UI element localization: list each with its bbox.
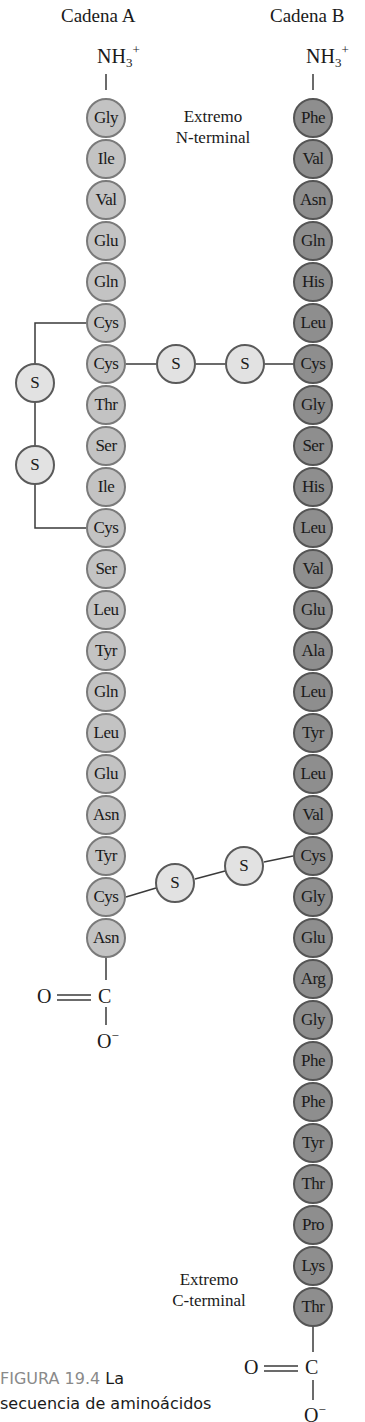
residue-b3: Asn xyxy=(293,180,333,220)
residue-b16: Tyr xyxy=(293,713,333,753)
oxygen-text: O xyxy=(97,1030,111,1052)
residue-a21: Asn xyxy=(86,918,126,958)
residue-a5: Gln xyxy=(86,262,126,302)
residue-b23: Gly xyxy=(293,1000,333,1040)
chain-a-title: Cadena A xyxy=(61,5,135,27)
residue-a18: Asn xyxy=(86,795,126,835)
residue-a15: Gln xyxy=(86,672,126,712)
residue-b21: Glu xyxy=(293,918,333,958)
subscript: 3 xyxy=(126,55,133,70)
residue-b11: Leu xyxy=(293,508,333,548)
sulfur-atom: S xyxy=(15,445,55,485)
residue-b29: Lys xyxy=(293,1246,333,1286)
residue-b7: Cys xyxy=(293,344,333,384)
residue-a7: Cys xyxy=(86,344,126,384)
sulfur-atom: S xyxy=(225,344,265,384)
chain-b-n-terminus: NH3+ xyxy=(306,42,349,71)
residue-b25: Phe xyxy=(293,1082,333,1122)
residue-b15: Leu xyxy=(293,672,333,712)
chain-a-n-terminus: NH3+ xyxy=(97,42,140,71)
charge: − xyxy=(318,1402,325,1417)
residue-a6: Cys xyxy=(86,303,126,343)
charge: − xyxy=(111,1028,118,1043)
carbonyl-oxygen: O xyxy=(244,1356,258,1379)
oxygen-text: O xyxy=(304,1404,318,1422)
residue-b2: Val xyxy=(293,139,333,179)
n-terminal-label-line2: N-terminal xyxy=(158,127,268,148)
superscript: + xyxy=(341,42,348,57)
c-terminal-label-line1: Extremo xyxy=(154,1269,264,1290)
residue-a17: Glu xyxy=(86,754,126,794)
caption-text-line1: La xyxy=(105,1369,124,1388)
residue-b12: Val xyxy=(293,549,333,589)
carboxylate-oxygen: O− xyxy=(97,1028,119,1053)
residue-b13: Glu xyxy=(293,590,333,630)
figure-number: FIGURA 19.4 xyxy=(0,1369,100,1388)
sulfur-atom: S xyxy=(15,363,55,403)
residue-b26: Tyr xyxy=(293,1123,333,1163)
residue-b19: Cys xyxy=(293,836,333,876)
chain-b-title: Cadena B xyxy=(270,5,344,27)
residue-a12: Ser xyxy=(86,549,126,589)
residue-b5: His xyxy=(293,262,333,302)
residue-b4: Gln xyxy=(293,221,333,261)
residue-a14: Tyr xyxy=(86,631,126,671)
nh-text: NH xyxy=(97,45,126,67)
residue-b17: Leu xyxy=(293,754,333,794)
carboxyl-carbon: C xyxy=(305,1356,318,1379)
residue-b22: Arg xyxy=(293,959,333,999)
c-terminal-label: Extremo C-terminal xyxy=(154,1269,264,1311)
residue-b27: Thr xyxy=(293,1164,333,1204)
residue-a3: Val xyxy=(86,180,126,220)
residue-b8: Gly xyxy=(293,385,333,425)
n-terminal-label: Extremo N-terminal xyxy=(158,106,268,148)
residue-a19: Tyr xyxy=(86,836,126,876)
residue-a2: Ile xyxy=(86,139,126,179)
residue-b10: His xyxy=(293,467,333,507)
carboxyl-carbon: C xyxy=(98,985,111,1008)
residue-b14: Ala xyxy=(293,631,333,671)
residue-b28: Pro xyxy=(293,1205,333,1245)
residue-a4: Glu xyxy=(86,221,126,261)
n-terminal-label-line1: Extremo xyxy=(158,106,268,127)
residue-a9: Ser xyxy=(86,426,126,466)
residue-a11: Cys xyxy=(86,508,126,548)
sulfur-atom: S xyxy=(156,344,196,384)
caption-text-line2: secuencia de aminoácidos xyxy=(0,1391,211,1416)
residue-b20: Gly xyxy=(293,877,333,917)
carboxylate-oxygen: O− xyxy=(304,1402,326,1422)
residue-a16: Leu xyxy=(86,713,126,753)
c-terminal-label-line2: C-terminal xyxy=(154,1290,264,1311)
residue-b6: Leu xyxy=(293,303,333,343)
figure-caption: FIGURA 19.4 La secuencia de aminoácidos xyxy=(0,1366,211,1416)
residue-a1: Gly xyxy=(86,98,126,138)
superscript: + xyxy=(132,42,139,57)
sulfur-atom: S xyxy=(224,846,264,886)
residue-a10: Ile xyxy=(86,467,126,507)
residue-b9: Ser xyxy=(293,426,333,466)
residue-a13: Leu xyxy=(86,590,126,630)
residue-b24: Phe xyxy=(293,1041,333,1081)
sulfur-atom: S xyxy=(155,863,195,903)
residue-b18: Val xyxy=(293,795,333,835)
residue-a8: Thr xyxy=(86,385,126,425)
carbonyl-oxygen: O xyxy=(37,985,51,1008)
residue-b1: Phe xyxy=(293,98,333,138)
residue-a20: Cys xyxy=(86,877,126,917)
residue-b30: Thr xyxy=(293,1287,333,1327)
subscript: 3 xyxy=(335,55,342,70)
nh-text: NH xyxy=(306,45,335,67)
